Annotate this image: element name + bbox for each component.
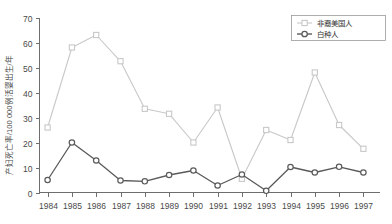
data-point-marker xyxy=(215,183,220,188)
data-point-marker xyxy=(191,140,196,145)
x-tick-label: 1997 xyxy=(354,201,373,211)
y-tick-label: 10 xyxy=(23,164,33,174)
y-axis-tick-labels: 010203040506070 xyxy=(23,14,33,199)
x-axis-ticks xyxy=(49,193,364,197)
data-point-marker xyxy=(215,105,220,110)
y-axis-title: 产妇死亡率/100 000例活婴出生/年 xyxy=(4,55,14,175)
legend-marker xyxy=(302,20,307,25)
data-point-marker xyxy=(142,106,147,111)
x-tick-label: 1995 xyxy=(306,201,325,211)
data-point-marker xyxy=(191,168,196,173)
legend-label: 白种人 xyxy=(317,30,339,39)
data-point-marker xyxy=(166,172,171,177)
y-tick-label: 60 xyxy=(23,39,33,49)
x-tick-label: 1992 xyxy=(233,201,252,211)
data-point-marker xyxy=(167,111,172,116)
series-line xyxy=(48,35,364,179)
data-point-marker xyxy=(118,178,123,183)
chart-plot-area: 产妇死亡率/100 000例活婴出生/年 010203040506070 198… xyxy=(0,0,392,224)
y-tick-label: 0 xyxy=(28,189,33,199)
series-layer xyxy=(45,32,366,193)
x-tick-label: 1987 xyxy=(112,201,131,211)
legend-label: 非裔美国人 xyxy=(317,19,353,28)
x-tick-label: 1985 xyxy=(63,201,82,211)
x-axis-tick-labels: 1984198519861987198819891990199119921993… xyxy=(39,201,373,211)
data-point-marker xyxy=(337,122,342,127)
x-tick-label: 1996 xyxy=(330,201,349,211)
data-point-marker xyxy=(336,164,341,169)
x-tick-label: 1984 xyxy=(39,201,58,211)
data-point-marker xyxy=(288,164,293,169)
data-point-marker xyxy=(69,45,74,50)
y-axis-ticks xyxy=(36,19,40,194)
data-point-marker xyxy=(45,125,50,130)
data-point-marker xyxy=(142,179,147,184)
data-point-marker xyxy=(288,137,293,142)
x-tick-label: 1993 xyxy=(257,201,276,211)
y-tick-label: 30 xyxy=(23,114,33,124)
legend-marker xyxy=(302,31,307,36)
series-1 xyxy=(45,32,366,181)
data-point-marker xyxy=(264,127,269,132)
series-line xyxy=(48,143,364,191)
chart-legend: 非裔美国人白种人 xyxy=(292,16,386,41)
maternal-mortality-line-chart: 产妇死亡率/100 000例活婴出生/年 010203040506070 198… xyxy=(0,0,392,224)
x-tick-label: 1994 xyxy=(282,201,301,211)
data-point-marker xyxy=(118,59,123,64)
data-point-marker xyxy=(264,188,269,193)
y-tick-label: 40 xyxy=(23,89,33,99)
y-tick-label: 20 xyxy=(23,139,33,149)
data-point-marker xyxy=(312,170,317,175)
x-tick-label: 1989 xyxy=(160,201,179,211)
x-tick-label: 1990 xyxy=(184,201,203,211)
data-point-marker xyxy=(361,146,366,151)
series-2 xyxy=(45,140,366,194)
data-point-marker xyxy=(45,177,50,182)
data-point-marker xyxy=(94,158,99,163)
x-tick-label: 1991 xyxy=(209,201,228,211)
y-tick-label: 70 xyxy=(23,14,33,24)
data-point-marker xyxy=(94,32,99,37)
data-point-marker xyxy=(312,70,317,75)
x-tick-label: 1988 xyxy=(136,201,155,211)
x-tick-label: 1986 xyxy=(87,201,106,211)
data-point-marker xyxy=(239,172,244,177)
y-tick-label: 50 xyxy=(23,64,33,74)
data-point-marker xyxy=(361,170,366,175)
data-point-marker xyxy=(69,140,74,145)
